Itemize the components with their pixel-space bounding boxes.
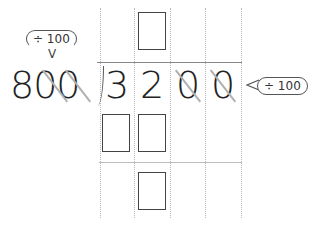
dividend-hint-bubble: ÷ 100 xyxy=(257,77,308,95)
dividend-digit: 3 xyxy=(99,62,135,108)
dividend-hint-text: ÷ 100 xyxy=(264,79,301,93)
grid-column-line xyxy=(170,8,171,218)
grid-column-line xyxy=(205,8,206,218)
product-answer-box[interactable] xyxy=(138,114,166,152)
dividend-digit: 2 xyxy=(134,62,170,108)
product-answer-box[interactable] xyxy=(102,114,130,152)
divisor: 800 xyxy=(10,62,80,108)
quotient-answer-box[interactable] xyxy=(138,12,166,50)
grid-column-line xyxy=(134,8,135,218)
divisor-hint-text: ÷ 100 xyxy=(33,32,70,46)
subtraction-line xyxy=(99,162,242,163)
grid-column-line xyxy=(241,8,242,218)
divisor-arrow-icon: V xyxy=(48,47,56,61)
divisor-hint-bubble: ÷ 100 xyxy=(26,30,77,48)
remainder-answer-box[interactable] xyxy=(138,172,166,210)
grid-column-line xyxy=(100,8,101,218)
